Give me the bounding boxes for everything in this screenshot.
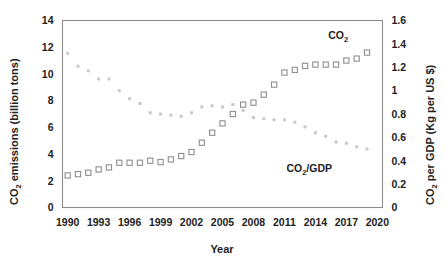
data-point (200, 105, 203, 108)
x-tick-1996: 1996 (118, 216, 142, 228)
y-left-title-part2: emissions (billion tons) (8, 58, 20, 184)
data-point (190, 111, 193, 114)
y-left-tick-4: 4 (48, 148, 54, 160)
y-left-tick-14: 14 (42, 14, 54, 26)
data-point (366, 148, 369, 151)
data-point (107, 77, 110, 80)
data-point (324, 135, 327, 138)
data-point (292, 67, 297, 72)
x-tick-1999: 1999 (149, 216, 173, 228)
data-point (159, 113, 162, 116)
y-right-tick-0-8: 0.8 (392, 108, 407, 120)
data-point (272, 82, 277, 87)
x-tick-2008: 2008 (242, 216, 266, 228)
data-point (283, 118, 286, 121)
x-tick-2017: 2017 (335, 216, 359, 228)
data-point (148, 158, 153, 163)
annotation-co2-sub: 2 (344, 35, 348, 44)
data-point (302, 63, 307, 68)
data-point (252, 116, 255, 119)
data-point (169, 114, 172, 117)
data-point (96, 167, 101, 172)
data-point (231, 103, 234, 106)
y-right-title-part1: CO (424, 188, 436, 205)
data-point (66, 52, 69, 55)
data-point (65, 173, 70, 178)
y-right-tick-1-6: 1.6 (392, 14, 407, 26)
data-point (211, 104, 214, 107)
data-point (345, 142, 348, 145)
data-point (106, 165, 111, 170)
data-point (313, 62, 318, 67)
data-point (180, 115, 183, 118)
data-point (314, 131, 317, 134)
x-tick-2014: 2014 (304, 216, 328, 228)
x-tick-1993: 1993 (87, 216, 111, 228)
data-point (199, 140, 204, 145)
y-right-tick-0-2: 0.2 (392, 178, 407, 190)
x-tick-2020: 2020 (366, 216, 390, 228)
data-point (97, 77, 100, 80)
y-axis-right-tick-labels: 00.20.40.60.811.21.41.6 (392, 14, 407, 213)
data-point (262, 117, 265, 120)
y-right-tick-0-4: 0.4 (392, 155, 407, 167)
data-point (158, 159, 163, 164)
y-right-tick-0: 0 (392, 201, 398, 213)
data-point (138, 102, 141, 105)
data-point (127, 160, 132, 165)
data-point (117, 160, 122, 165)
data-point (261, 92, 266, 97)
annotation-co2gdp-tail: /GDP (306, 162, 332, 174)
data-point (168, 157, 173, 162)
annotation-co2-main: CO (328, 29, 344, 41)
x-axis-tick-labels: 1990199319961999200220052008201120142017… (56, 216, 389, 228)
data-point (304, 125, 307, 128)
data-point (335, 141, 338, 144)
data-point (230, 111, 235, 116)
data-point (179, 153, 184, 158)
data-point (344, 58, 349, 63)
data-point (241, 102, 246, 107)
y-right-tick-1-2: 1.2 (392, 61, 407, 73)
data-point (137, 160, 142, 165)
data-point (128, 97, 131, 100)
data-point (251, 100, 256, 105)
annotation-co2gdp-main: CO (286, 162, 302, 174)
co2-emissions-chart: CO2 emissions (billion tons) CO2 per GDP… (0, 0, 445, 262)
data-point (323, 62, 328, 67)
y-left-tick-12: 12 (42, 41, 54, 53)
y-right-tick-1: 1 (392, 84, 398, 96)
x-tick-2002: 2002 (180, 216, 204, 228)
data-point (87, 69, 90, 72)
data-point (242, 109, 245, 112)
data-point (118, 89, 121, 92)
x-axis-title: Year (210, 243, 234, 255)
data-point (282, 70, 287, 75)
y-left-tick-10: 10 (42, 68, 54, 80)
chart-figure: CO2 emissions (billion tons) CO2 per GDP… (0, 0, 445, 262)
data-point (354, 56, 359, 61)
data-point (364, 50, 369, 55)
data-point (149, 111, 152, 114)
data-point (76, 65, 79, 68)
data-point (333, 62, 338, 67)
y-left-tick-0: 0 (48, 201, 54, 213)
data-point (75, 172, 80, 177)
data-point (355, 145, 358, 148)
y-right-tick-0-6: 0.6 (392, 131, 407, 143)
data-point (293, 121, 296, 124)
y-left-tick-6: 6 (48, 121, 54, 133)
x-tick-1990: 1990 (56, 216, 80, 228)
data-point (221, 105, 224, 108)
data-point (273, 118, 276, 121)
data-point (210, 130, 215, 135)
y-left-tick-2: 2 (48, 175, 54, 187)
x-tick-2005: 2005 (211, 216, 235, 228)
data-point (86, 170, 91, 175)
y-right-tick-1-4: 1.4 (392, 38, 407, 50)
data-point (220, 121, 225, 126)
data-point (189, 149, 194, 154)
y-right-title-part2: per GDP (Kg per US $) (424, 64, 436, 184)
x-tick-2011: 2011 (273, 216, 296, 228)
y-left-tick-8: 8 (48, 94, 54, 106)
